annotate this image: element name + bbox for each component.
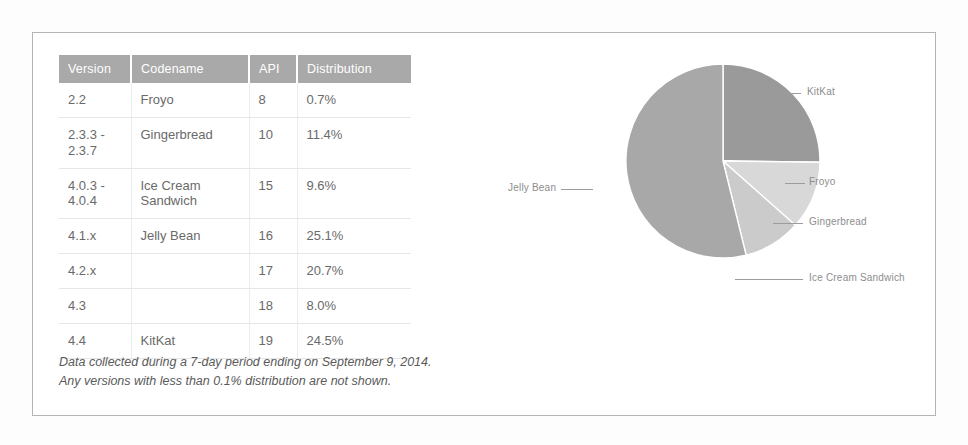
- page-background: Version Codename API Distribution 2.2 Fr…: [0, 0, 968, 445]
- leader-line-froyo: [785, 183, 805, 184]
- column-header-distribution[interactable]: Distribution: [297, 55, 411, 83]
- column-header-version[interactable]: Version: [59, 55, 131, 83]
- cell-api: 17: [249, 254, 297, 289]
- table-row: 2.2 Froyo 8 0.7%: [59, 83, 411, 117]
- cell-version: 4.0.3 -4.0.4: [59, 168, 131, 219]
- pie-chart-svg: [623, 61, 823, 261]
- pie-label-ice-cream-sandwich: Ice Cream Sandwich: [809, 272, 905, 283]
- cell-codename: Ice CreamSandwich: [131, 168, 249, 219]
- table-header: Version Codename API Distribution: [59, 55, 411, 83]
- table-header-row: Version Codename API Distribution: [59, 55, 411, 83]
- distribution-table: Version Codename API Distribution 2.2 Fr…: [59, 55, 411, 359]
- cell-codename: Jelly Bean: [131, 219, 249, 254]
- cell-codename: Gingerbread: [131, 117, 249, 168]
- cell-version: 2.2: [59, 83, 131, 117]
- leader-line-ice-cream-sandwich: [735, 279, 803, 280]
- cell-version: 4.3: [59, 289, 131, 324]
- table-row: 4.0.3 -4.0.4 Ice CreamSandwich 15 9.6%: [59, 168, 411, 219]
- table-row: 4.3 18 8.0%: [59, 289, 411, 324]
- cell-distribution: 9.6%: [297, 168, 411, 219]
- cell-codename: [131, 254, 249, 289]
- pie-label-froyo: Froyo: [809, 176, 836, 187]
- cell-api: 8: [249, 83, 297, 117]
- pie-chart: [623, 61, 823, 261]
- leader-line-gingerbread: [773, 223, 803, 224]
- table-row: 4.1.x Jelly Bean 16 25.1%: [59, 219, 411, 254]
- table-body: 2.2 Froyo 8 0.7% 2.3.3 -2.3.7 Gingerbrea…: [59, 83, 411, 358]
- cell-api: 15: [249, 168, 297, 219]
- column-header-api[interactable]: API: [249, 55, 297, 83]
- cell-version: 4.2.x: [59, 254, 131, 289]
- pie-slice-kitkat[interactable]: [723, 64, 820, 164]
- cell-version: 4.1.x: [59, 219, 131, 254]
- cell-distribution: 25.1%: [297, 219, 411, 254]
- table-row: 4.2.x 17 20.7%: [59, 254, 411, 289]
- cell-api: 10: [249, 117, 297, 168]
- leader-line-jelly-bean: [561, 189, 593, 190]
- pie-label-jelly-bean: Jelly Bean: [508, 182, 556, 193]
- distribution-table-wrapper: Version Codename API Distribution 2.2 Fr…: [59, 55, 411, 359]
- pie-label-gingerbread: Gingerbread: [809, 216, 867, 227]
- cell-distribution: 20.7%: [297, 254, 411, 289]
- cell-distribution: 11.4%: [297, 117, 411, 168]
- pie-label-kitkat: KitKat: [807, 86, 835, 97]
- cell-codename: [131, 289, 249, 324]
- cell-api: 16: [249, 219, 297, 254]
- column-header-codename[interactable]: Codename: [131, 55, 249, 83]
- cell-distribution: 0.7%: [297, 83, 411, 117]
- cell-codename: Froyo: [131, 83, 249, 117]
- cell-distribution: 8.0%: [297, 289, 411, 324]
- table-row: 2.3.3 -2.3.7 Gingerbread 10 11.4%: [59, 117, 411, 168]
- content-card: Version Codename API Distribution 2.2 Fr…: [32, 32, 936, 416]
- cell-api: 18: [249, 289, 297, 324]
- leader-line-kitkat: [745, 93, 801, 94]
- cell-version: 2.3.3 -2.3.7: [59, 117, 131, 168]
- pie-chart-area: KitKat Froyo Gingerbread Ice Cream Sandw…: [433, 33, 937, 415]
